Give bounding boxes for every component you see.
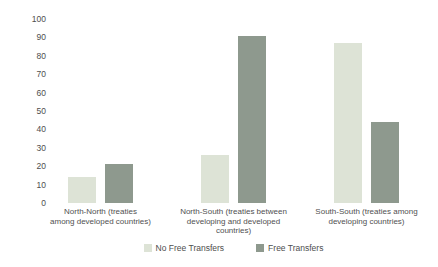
y-axis-tick-label: 10 <box>10 180 46 190</box>
y-axis-tick-label: 80 <box>10 51 46 61</box>
legend-label: No Free Transfers <box>156 243 225 253</box>
category-label: South-South (treaties among developing c… <box>300 207 433 226</box>
bar-no-free-transfers <box>201 155 229 203</box>
legend-item: No Free Transfers <box>144 243 225 253</box>
legend: No Free TransfersFree Transfers <box>34 243 433 253</box>
y-axis-tick-label: 60 <box>10 88 46 98</box>
bar-free-transfers <box>105 164 133 203</box>
bar-no-free-transfers <box>68 177 96 203</box>
y-axis-tick-label: 90 <box>10 32 46 42</box>
category-label: North-North (treaties among developed co… <box>34 207 167 226</box>
legend-item: Free Transfers <box>256 243 323 253</box>
legend-label: Free Transfers <box>268 243 323 253</box>
y-axis-tick-label: 70 <box>10 69 46 79</box>
legend-swatch-icon <box>144 244 152 252</box>
y-axis-tick-label: 50 <box>10 106 46 116</box>
y-axis-tick-label: 40 <box>10 124 46 134</box>
bar-free-transfers <box>238 36 266 203</box>
category-label: North-South (treaties between developing… <box>167 207 300 236</box>
y-axis-tick-label: 100 <box>10 14 46 24</box>
legend-swatch-icon <box>256 244 264 252</box>
bar-chart-figure: 1009080706050403020100 North-North (trea… <box>0 0 438 267</box>
bar-free-transfers <box>371 122 399 203</box>
bar-no-free-transfers <box>334 43 362 203</box>
y-axis-tick-label: 30 <box>10 143 46 153</box>
y-axis-tick-label: 20 <box>10 161 46 171</box>
